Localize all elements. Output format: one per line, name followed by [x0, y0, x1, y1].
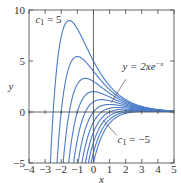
annotation-c1-5-suffix: = 5 — [44, 13, 62, 25]
chart: −4−3−2−1012345−50510 x y c1 = 5 y = 2xe−… — [0, 0, 181, 183]
annotation-c1-equals-neg5: c1 = −5 — [118, 133, 151, 147]
annotation-y-2xe-neg-x: y = 2xe−x — [121, 60, 164, 72]
x-tick-label: 3 — [139, 163, 145, 175]
tick-labels-group: −4−3−2−1012345−50510 — [13, 4, 177, 175]
x-tick-label: 0 — [91, 163, 97, 175]
annotation-c1-equals-5: c1 = 5 — [35, 13, 62, 27]
y-axis-label: y — [8, 80, 14, 92]
x-tick-label: −3 — [39, 163, 51, 175]
plot-frame — [29, 10, 174, 163]
x-axis-label: x — [98, 173, 104, 183]
x-tick-label: 1 — [107, 163, 113, 175]
x-tick-label: 5 — [171, 163, 177, 175]
annotation-2xe-superscript: −x — [156, 60, 165, 68]
annotation-c1-neg5-suffix: = −5 — [127, 133, 151, 145]
x-tick-label: 2 — [123, 163, 129, 175]
ticks-group — [29, 10, 174, 163]
x-tick-label: −2 — [55, 163, 67, 175]
y-tick-label: 5 — [20, 55, 26, 67]
x-tick-label: 4 — [155, 163, 161, 175]
y-tick-label: 10 — [14, 4, 26, 16]
x-tick-label: −1 — [71, 163, 83, 175]
annotation-2xe-text: y = 2xe — [121, 60, 155, 72]
y-tick-label: 0 — [20, 106, 26, 118]
y-tick-label: −5 — [13, 157, 25, 169]
